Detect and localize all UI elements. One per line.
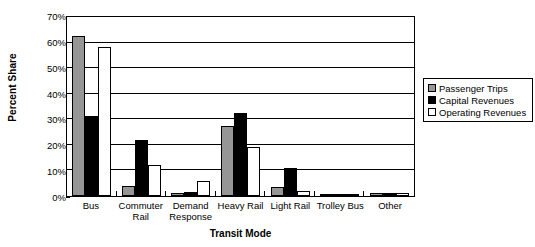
x-axis-tick-labels: BusCommuterRailDemandResponseHeavy RailL…: [66, 200, 415, 226]
bars: [315, 17, 365, 196]
x-axis-tick-label: Heavy Rail: [216, 200, 266, 226]
bar-group: [265, 17, 315, 196]
bar: [85, 116, 98, 196]
legend-swatch: [428, 84, 436, 92]
bar: [271, 187, 284, 196]
y-axis-tick-label: 10%: [32, 166, 66, 177]
y-axis-tick-mark: [66, 197, 70, 198]
legend-item: Capital Revenues: [428, 94, 529, 106]
bar: [396, 193, 409, 196]
x-axis-title: Transit Mode: [66, 228, 415, 239]
bar: [221, 126, 234, 196]
x-axis-tick-label: Trolley Bus: [315, 200, 365, 226]
bars: [117, 17, 167, 196]
bar: [72, 36, 85, 196]
bar-group: [117, 17, 167, 196]
bar: [122, 186, 135, 196]
bar-group: [166, 17, 216, 196]
bar: [171, 193, 184, 196]
plot-area: [66, 16, 415, 197]
legend-label: Capital Revenues: [439, 95, 514, 106]
y-axis-tick-label: 20%: [32, 140, 66, 151]
bar: [297, 191, 310, 196]
bar: [98, 47, 111, 196]
bars: [166, 17, 216, 196]
x-axis-tick-label: Bus: [66, 200, 116, 226]
y-axis-tick-labels: 0%10%20%30%40%50%60%70%: [26, 16, 66, 197]
bar: [346, 194, 359, 196]
legend-label: Passenger Trips: [439, 83, 508, 94]
bar: [234, 113, 247, 196]
bars: [67, 17, 117, 196]
bars: [216, 17, 266, 196]
legend-swatch: [428, 96, 436, 104]
bar: [383, 193, 396, 196]
bar-group: [216, 17, 266, 196]
y-axis-tick-label: 30%: [32, 114, 66, 125]
bar: [197, 181, 210, 197]
bar: [148, 165, 161, 196]
y-axis-title: Percent Share: [2, 0, 22, 211]
x-axis-tick-label: DemandResponse: [166, 200, 216, 226]
bar: [333, 194, 346, 196]
bar: [284, 168, 297, 196]
bar-groups: [67, 17, 414, 196]
bars: [265, 17, 315, 196]
x-axis-tick-label: Other: [365, 200, 415, 226]
x-axis-tick-label: Light Rail: [265, 200, 315, 226]
legend-swatch: [428, 108, 436, 116]
y-axis-tick-label: 40%: [32, 88, 66, 99]
bar-group: [364, 17, 414, 196]
bar-chart: Percent Share 0%10%20%30%40%50%60%70% Bu…: [0, 0, 535, 247]
y-axis-tick-label: 0%: [32, 192, 66, 203]
bar-group: [315, 17, 365, 196]
y-axis-tick-label: 70%: [32, 11, 66, 22]
legend-item: Operating Revenues: [428, 106, 529, 118]
y-axis-tick-label: 50%: [32, 62, 66, 73]
bar-group: [67, 17, 117, 196]
bar: [370, 193, 383, 196]
y-axis-tick-label: 60%: [32, 36, 66, 47]
bar: [247, 147, 260, 196]
legend: Passenger TripsCapital RevenuesOperating…: [423, 78, 533, 122]
legend-label: Operating Revenues: [439, 107, 526, 118]
bars: [364, 17, 414, 196]
bar: [320, 194, 333, 196]
x-axis-tick-label: CommuterRail: [116, 200, 166, 226]
bar: [184, 192, 197, 196]
legend-item: Passenger Trips: [428, 82, 529, 94]
bar: [135, 140, 148, 196]
